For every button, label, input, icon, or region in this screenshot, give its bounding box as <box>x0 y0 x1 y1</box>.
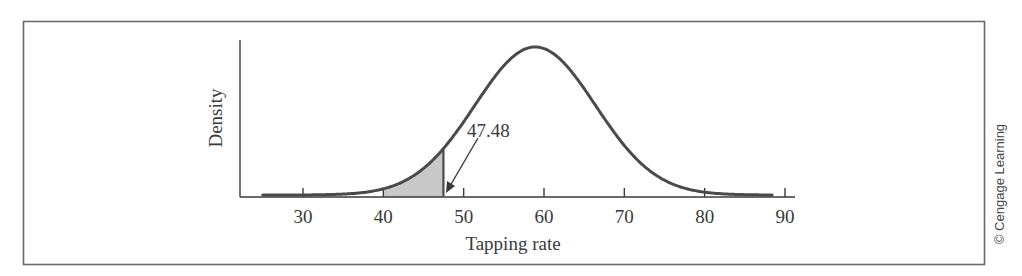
annotation-arrow <box>446 138 478 193</box>
copyright-credit: © Cengage Learning <box>992 124 1007 244</box>
x-tick-label: 60 <box>535 206 554 227</box>
x-tick-label: 90 <box>776 206 795 227</box>
annotation-label: 47.48 <box>467 120 510 141</box>
x-axis-title: Tapping rate <box>465 233 560 254</box>
x-tick-label: 70 <box>615 206 634 227</box>
x-tick-label: 50 <box>454 206 473 227</box>
x-tick-label: 40 <box>374 206 393 227</box>
x-tick-labels: 30405060708090 <box>294 206 795 227</box>
density-curve <box>263 47 772 195</box>
y-axis-title: Density <box>205 88 226 148</box>
x-tick-label: 80 <box>695 206 714 227</box>
shaded-tail-area <box>383 149 443 197</box>
x-tick-label: 30 <box>294 206 313 227</box>
arrowhead-icon <box>446 181 455 193</box>
chart-canvas: 47.48 30405060708090 Tapping rate Densit… <box>0 0 1022 276</box>
figure-frame <box>24 22 985 265</box>
